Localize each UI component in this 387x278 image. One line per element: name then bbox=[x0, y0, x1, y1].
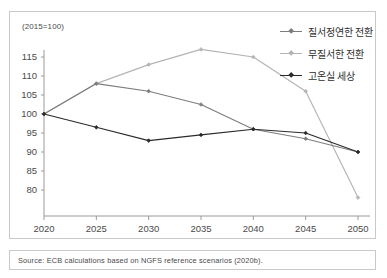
legend-label-disorderly: 무질서한 전환 bbox=[308, 46, 364, 61]
series-marker bbox=[147, 89, 151, 93]
legend-item-disorderly: 무질서한 전환 bbox=[280, 46, 373, 61]
x-tick-label: 2050 bbox=[347, 223, 368, 234]
series-marker bbox=[147, 139, 151, 143]
y-tick-label: 105 bbox=[21, 89, 37, 100]
y-tick-label: 80 bbox=[26, 184, 37, 195]
y-tick-label: 100 bbox=[21, 108, 37, 119]
legend-swatch-orderly bbox=[280, 27, 302, 36]
legend-label-orderly: 질서정연한 전환 bbox=[308, 24, 373, 39]
series-marker bbox=[94, 125, 98, 129]
series-marker bbox=[356, 150, 360, 154]
legend-item-hothouse: 고온실 세상 bbox=[280, 68, 373, 83]
series-marker bbox=[199, 48, 203, 52]
x-tick-label: 2030 bbox=[138, 223, 159, 234]
series-marker bbox=[147, 63, 151, 67]
series-marker bbox=[251, 127, 255, 131]
series-marker bbox=[199, 133, 203, 137]
y-tick-label: 95 bbox=[26, 127, 37, 138]
x-tick-label: 2025 bbox=[86, 223, 107, 234]
legend-label-hothouse: 고온실 세상 bbox=[308, 68, 355, 83]
series-line-0 bbox=[44, 84, 358, 152]
y-tick-label: 90 bbox=[26, 146, 37, 157]
legend-item-orderly: 질서정연한 전환 bbox=[280, 24, 373, 39]
source-note-box: Source: ECB calculations based on NGFS r… bbox=[9, 250, 376, 270]
y-tick-group: 11511010510095908580 bbox=[21, 51, 44, 195]
x-tick-label: 2040 bbox=[243, 223, 264, 234]
chart-legend: 질서정연한 전환 무질서한 전환 고온실 세상 bbox=[280, 24, 373, 83]
series-marker bbox=[199, 103, 203, 107]
series-marker bbox=[304, 131, 308, 135]
y-tick-label: 85 bbox=[26, 165, 37, 176]
x-tick-group: 2020202520302035204020452050 bbox=[33, 216, 368, 234]
legend-swatch-disorderly bbox=[280, 49, 302, 58]
chart-figure: (2015=100) 11511010510095908580 20202025… bbox=[0, 0, 387, 278]
series-marker bbox=[304, 137, 308, 141]
y-tick-label: 115 bbox=[22, 51, 37, 62]
y-tick-label: 110 bbox=[22, 70, 37, 81]
x-tick-label: 2035 bbox=[190, 223, 211, 234]
x-tick-label: 2045 bbox=[295, 223, 316, 234]
x-tick-label: 2020 bbox=[33, 223, 54, 234]
legend-swatch-hothouse bbox=[280, 71, 302, 80]
source-note-text: Source: ECB calculations based on NGFS r… bbox=[10, 256, 263, 265]
series-marker bbox=[356, 196, 360, 200]
